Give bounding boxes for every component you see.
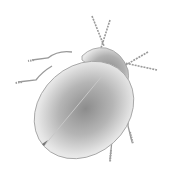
beetle-illustration: beetle illustration [0,0,176,178]
beetle-drawing [0,0,176,178]
